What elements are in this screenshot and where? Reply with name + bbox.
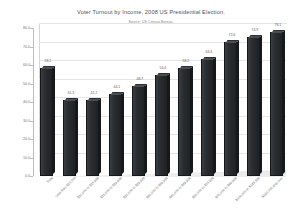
bar-front-face bbox=[178, 68, 191, 176]
bar[interactable]: 63.4 bbox=[201, 59, 214, 176]
bar[interactable]: 72.6 bbox=[224, 42, 237, 176]
bar-value-label: 74.9 bbox=[251, 28, 258, 32]
bar-front-face bbox=[155, 75, 168, 176]
plot-area: 0.010.020.030.040.050.060.070.080.0 58.2… bbox=[33, 28, 286, 176]
x-axis-category-label: $100,000 to $149,999 bbox=[234, 176, 260, 202]
bar-side-face bbox=[259, 36, 262, 175]
bar[interactable]: 41.2 bbox=[86, 100, 99, 176]
bar-value-label: 54.4 bbox=[159, 66, 166, 70]
gridline bbox=[39, 23, 286, 24]
bar-side-face bbox=[190, 66, 193, 175]
bar-value-label: 72.6 bbox=[228, 33, 235, 37]
bar-side-face bbox=[236, 40, 239, 175]
x-axis-category-label: $30,000 to $39,999 bbox=[145, 176, 169, 200]
x-axis-category-label: $50,000 to $74,999 bbox=[191, 176, 215, 200]
chart-title: Voter Turnout by Income, 2008 US Preside… bbox=[0, 9, 302, 15]
bar-value-label: 58.2 bbox=[44, 59, 51, 63]
bar-front-face bbox=[109, 94, 122, 176]
bar-side-face bbox=[98, 98, 101, 175]
bar[interactable]: 44.1 bbox=[109, 94, 122, 176]
bar[interactable]: 58.2 bbox=[40, 68, 53, 176]
x-axis-category-label: $75,000 to $99,999 bbox=[214, 176, 238, 200]
bar-value-label: 41.2 bbox=[90, 91, 97, 95]
x-axis-category-label: $40,000 to $49,999 bbox=[168, 176, 192, 200]
bar-front-face bbox=[247, 37, 260, 176]
x-axis-category-label: $15,000 to $19,999 bbox=[99, 176, 123, 200]
bar[interactable]: 54.4 bbox=[155, 75, 168, 176]
bar[interactable]: 74.9 bbox=[247, 37, 260, 176]
bar-side-face bbox=[144, 84, 147, 175]
bar[interactable]: 58.2 bbox=[178, 68, 191, 176]
chart-container: Voter Turnout by Income, 2008 US Preside… bbox=[0, 0, 302, 221]
x-axis-category-label: Total bbox=[45, 176, 53, 184]
bar-front-face bbox=[40, 68, 53, 176]
bar-front-face bbox=[270, 32, 283, 176]
bar-side-face bbox=[52, 66, 55, 175]
bar-side-face bbox=[121, 93, 124, 175]
bar-side-face bbox=[75, 98, 78, 175]
bar-value-label: 78.1 bbox=[274, 23, 281, 27]
bar-front-face bbox=[132, 86, 145, 176]
x-axis-category-label: $10,000 to $14,999 bbox=[76, 176, 100, 200]
bar[interactable]: 48.7 bbox=[132, 86, 145, 176]
x-axis-categories: TotalLess than $10,000$10,000 to $14,999… bbox=[33, 176, 286, 221]
x-axis-category-label: Less than $10,000 bbox=[54, 176, 77, 199]
bar-front-face bbox=[224, 42, 237, 176]
bar-series: 58.241.341.244.148.754.458.263.472.674.9… bbox=[33, 28, 286, 176]
bar[interactable]: 41.3 bbox=[63, 100, 76, 176]
bar-side-face bbox=[282, 30, 285, 175]
bar-value-label: 58.2 bbox=[182, 59, 189, 63]
bar-front-face bbox=[63, 100, 76, 176]
bar-front-face bbox=[86, 100, 99, 176]
bar-front-face bbox=[201, 59, 214, 176]
bar-value-label: 44.1 bbox=[113, 85, 120, 89]
bar-value-label: 48.7 bbox=[136, 77, 143, 81]
bar[interactable]: 78.1 bbox=[270, 32, 283, 176]
x-axis-category-label: $20,000 to $29,999 bbox=[122, 176, 146, 200]
bar-side-face bbox=[213, 57, 216, 175]
bar-side-face bbox=[167, 73, 170, 175]
bar-value-label: 41.3 bbox=[67, 91, 74, 95]
x-axis-category-label: $150,000 and over bbox=[261, 176, 284, 199]
bar-value-label: 63.4 bbox=[205, 50, 212, 54]
